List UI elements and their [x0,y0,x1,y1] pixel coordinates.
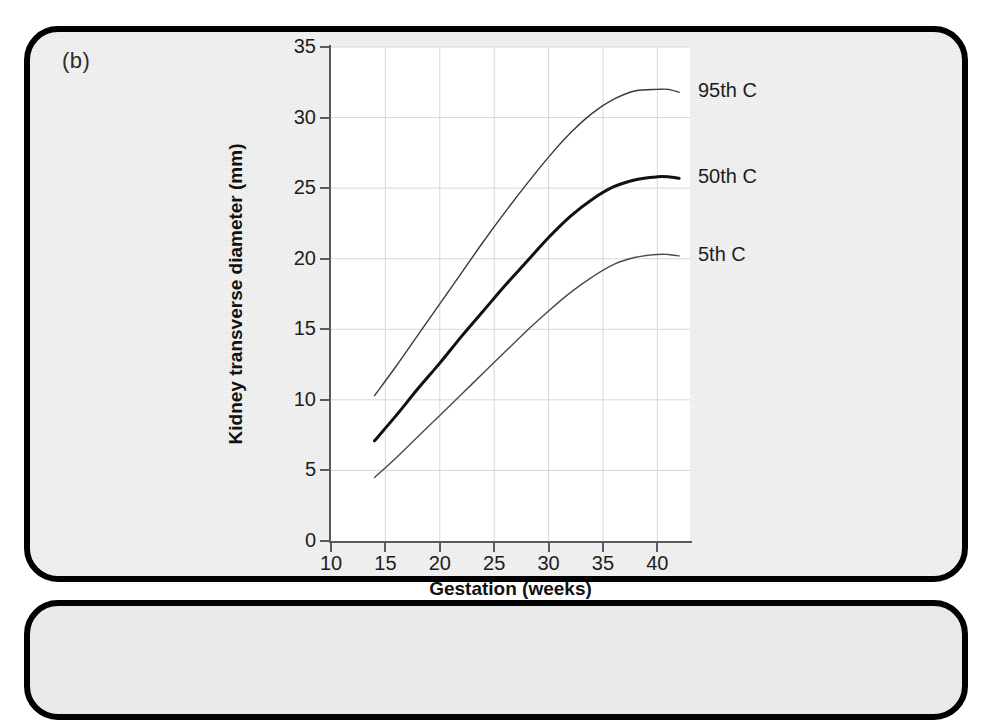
x-tick [439,543,441,552]
y-tick-label: 30 [272,106,316,129]
y-axis-spine [329,45,331,543]
y-tick [320,328,329,330]
y-axis-title: Kidney transverse diameter (mm) [225,144,247,445]
x-tick [602,543,604,552]
figure-panel-next-clipped [24,600,968,720]
curve-50th-c [375,177,680,441]
y-tick-label: 20 [272,247,316,270]
x-tick-label: 20 [415,552,465,575]
x-tick-label: 40 [632,552,682,575]
x-axis-title: Gestation (weeks) [331,578,690,600]
y-tick [320,540,329,542]
x-tick [384,543,386,552]
y-tick [320,469,329,471]
series-label-50th: 50th C [698,165,757,188]
y-tick [320,187,329,189]
x-tick [493,543,495,552]
x-tick [656,543,658,552]
y-tick-label: 15 [272,317,316,340]
y-tick-label: 25 [272,176,316,199]
plot-area [331,47,690,541]
y-tick [320,399,329,401]
x-tick-label: 15 [360,552,410,575]
y-axis-tick-labels: 05101520253035 [268,0,316,620]
y-tick-label: 5 [272,458,316,481]
y-tick [320,117,329,119]
y-tick-label: 0 [272,529,316,552]
curve-95th-c [375,89,680,396]
x-tick-label: 30 [524,552,574,575]
curve-5th-c [375,254,680,477]
series-label-95th: 95th C [698,79,757,102]
y-tick [320,258,329,260]
x-tick [330,543,332,552]
x-tick-label: 35 [578,552,628,575]
series-curves [331,47,690,541]
panel-letter-label: (b) [62,48,90,74]
x-tick [548,543,550,552]
series-label-5th: 5th C [698,243,746,266]
y-tick-label: 10 [272,388,316,411]
x-tick-label: 10 [306,552,356,575]
y-tick [320,46,329,48]
y-tick-label: 35 [272,35,316,58]
x-tick-label: 25 [469,552,519,575]
